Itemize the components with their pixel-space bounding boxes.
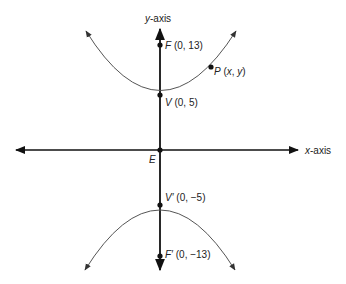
vertex-bottom-point	[157, 202, 162, 207]
point-p	[208, 64, 213, 69]
hyperbola-diagram: y-axis x-axis E F (0, 13) V (0, 5) P (x,…	[0, 0, 346, 284]
focus-top-coords: (0, 13)	[171, 40, 203, 51]
y-axis-suffix: -axis	[150, 13, 171, 24]
focus-top-point	[157, 42, 162, 47]
y-axis-label: y-axis	[144, 13, 171, 24]
vertex-bottom-label: V′ (0, −5)	[165, 192, 206, 203]
origin-point	[157, 147, 162, 152]
x-axis-suffix: -axis	[310, 145, 331, 156]
x-axis-label: x-axis	[304, 145, 331, 156]
focus-bottom-label: F′ (0, −13)	[165, 249, 211, 260]
focus-top-label: F (0, 13)	[165, 40, 203, 51]
upper-hyperbola-branch	[86, 31, 236, 91]
vertex-top-coords: (0, 5)	[172, 97, 198, 108]
vertex-top-label: V (0, 5)	[165, 97, 198, 108]
point-p-label: P (x, y)	[214, 66, 246, 77]
point-p-close: )	[242, 66, 245, 77]
origin-label: E	[149, 154, 156, 165]
focus-bottom-point	[157, 253, 162, 258]
focus-bottom-coords: (0, −13)	[173, 249, 211, 260]
vertex-bottom-coords: (0, −5)	[174, 192, 206, 203]
vertex-top-point	[157, 92, 162, 97]
